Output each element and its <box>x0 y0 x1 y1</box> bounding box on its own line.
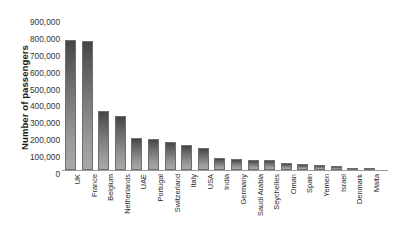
x-axis-tick: Saudi Arabia <box>248 172 259 224</box>
y-axis-tick-label: 100,000 <box>20 153 60 161</box>
x-axis-tick-label: Netherlands <box>124 174 131 214</box>
x-axis-tick-label: Italy <box>190 174 197 188</box>
x-axis-tick: Israel <box>331 172 342 224</box>
x-axis-tick-labels: UKFranceBelgiumNetherlandsUAEPortugalSwi… <box>62 172 388 226</box>
y-axis-tick-label: 900,000 <box>20 18 60 26</box>
x-axis-tick-label: Oman <box>290 174 297 194</box>
y-axis-tick-label: 600,000 <box>20 69 60 77</box>
x-axis-tick-label: UAE <box>140 174 147 189</box>
x-axis-tick-label: Spain <box>306 174 313 193</box>
bar <box>82 41 93 170</box>
x-axis-tick-label: Saudi Arabia <box>257 174 264 216</box>
x-axis-tick-label: Belgium <box>107 174 114 201</box>
plot-area <box>62 18 388 170</box>
x-axis-tick: USA <box>198 172 209 224</box>
x-axis-tick: Germany <box>231 172 242 224</box>
bar <box>248 160 259 170</box>
x-axis-tick: UK <box>65 172 76 224</box>
x-axis-tick-label: Malta <box>373 174 380 192</box>
y-axis-tick-label: 400,000 <box>20 102 60 110</box>
x-axis-tick: Spain <box>297 172 308 224</box>
x-axis-tick-label: India <box>223 174 230 190</box>
x-axis-tick: Italy <box>181 172 192 224</box>
x-axis-tick-label: France <box>91 174 98 197</box>
y-axis-tick-label: 200,000 <box>20 136 60 144</box>
x-axis-tick-label: UK <box>74 174 81 184</box>
x-axis-tick: Switzerland <box>165 172 176 224</box>
x-axis-tick-label: Seychelles <box>273 174 280 210</box>
x-axis-tick-label: Germany <box>240 174 247 204</box>
x-axis-tick-label: Denmark <box>356 174 363 204</box>
y-axis-tick-label: 0 <box>20 170 60 178</box>
x-axis-tick: Oman <box>281 172 292 224</box>
bar <box>181 145 192 170</box>
bar <box>115 116 126 170</box>
bars-layer <box>62 18 388 170</box>
x-axis-tick: Denmark <box>347 172 358 224</box>
x-axis-tick-label: USA <box>207 174 214 189</box>
x-axis-tick: France <box>82 172 93 224</box>
y-axis-tick-label: 500,000 <box>20 86 60 94</box>
bar <box>231 159 242 170</box>
bar <box>65 40 76 170</box>
x-axis-tick-label: Israel <box>340 174 347 192</box>
x-axis-tick: UAE <box>131 172 142 224</box>
bar <box>214 158 225 170</box>
x-axis-tick: Yemen <box>314 172 325 224</box>
bar <box>264 160 275 170</box>
x-axis-tick-label: Yemen <box>323 174 330 197</box>
x-axis-tick: Netherlands <box>115 172 126 224</box>
y-axis-tick-label: 800,000 <box>20 35 60 43</box>
bar <box>148 139 159 170</box>
bar <box>131 138 142 170</box>
bar <box>165 142 176 170</box>
x-axis-tick: India <box>214 172 225 224</box>
x-axis-tick: Seychelles <box>264 172 275 224</box>
x-axis-tick: Belgium <box>98 172 109 224</box>
bar <box>281 163 292 170</box>
bar <box>98 111 109 170</box>
x-axis-tick: Malta <box>364 172 375 224</box>
x-axis-tick-label: Portugal <box>157 174 164 202</box>
x-axis-line <box>62 170 388 171</box>
bar <box>198 148 209 170</box>
y-axis-tick-labels: 0100,000200,000300,000400,000500,000600,… <box>20 14 60 174</box>
y-axis-tick-label: 700,000 <box>20 52 60 60</box>
x-axis-tick-label: Switzerland <box>174 174 181 212</box>
x-axis-tick: Portugal <box>148 172 159 224</box>
y-axis-tick-label: 300,000 <box>20 119 60 127</box>
bar-chart: Number of passengers 0100,000200,000300,… <box>0 0 394 226</box>
